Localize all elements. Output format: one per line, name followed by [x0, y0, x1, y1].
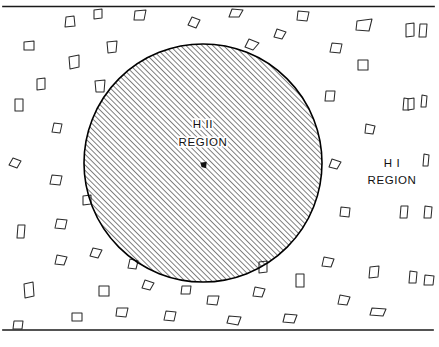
hi-label-line2: REGION: [368, 174, 417, 186]
hii-label-line1: H II: [193, 118, 213, 130]
hi-clump: [99, 286, 109, 296]
hi-clump: [370, 308, 386, 316]
hi-clump: [164, 311, 176, 321]
hi-clump: [365, 124, 375, 134]
hi-clump: [297, 11, 309, 21]
hi-clump: [283, 314, 297, 323]
hi-clump: [358, 60, 368, 70]
hi-clump: [17, 225, 25, 238]
hii-label-line2: REGION: [179, 136, 228, 148]
hi-clump: [13, 321, 23, 329]
hi-clump: [207, 296, 219, 305]
hii-region-diagram: H II H II REGION REGION H I REGION: [0, 0, 439, 347]
hi-clump: [15, 99, 23, 111]
hi-clump: [69, 55, 79, 69]
hi-clump: [406, 23, 414, 37]
hi-clump: [330, 43, 342, 53]
figure-container: H II H II REGION REGION H I REGION: [0, 0, 439, 347]
hi-clump: [181, 286, 191, 294]
hi-clump: [421, 95, 427, 107]
hi-clump: [95, 80, 105, 92]
hi-clump: [419, 24, 427, 37]
hi-clump: [72, 313, 82, 321]
hi-clump: [24, 282, 34, 298]
hi-clump: [55, 219, 67, 229]
hi-clump: [423, 154, 429, 166]
hi-clump: [369, 266, 379, 278]
hi-clump: [409, 271, 417, 283]
hi-clump: [356, 19, 372, 31]
hi-clump: [325, 91, 335, 101]
hi-clump: [134, 10, 146, 20]
hi-clump: [116, 308, 128, 317]
hi-clump: [94, 9, 102, 19]
hi-clump: [296, 274, 304, 287]
hi-clump: [424, 206, 432, 218]
hi-clump: [400, 206, 408, 218]
hi-clump: [24, 41, 34, 50]
hi-clump: [408, 98, 414, 110]
hi-label-line1: H I: [384, 157, 401, 169]
hi-clump: [37, 78, 45, 90]
hi-clump: [52, 123, 62, 133]
hi-clump: [65, 16, 75, 27]
hi-clump: [424, 275, 434, 285]
hi-clump: [50, 175, 62, 185]
hi-clump: [340, 207, 350, 217]
hi-clump: [227, 316, 241, 325]
hi-clump: [107, 41, 117, 53]
